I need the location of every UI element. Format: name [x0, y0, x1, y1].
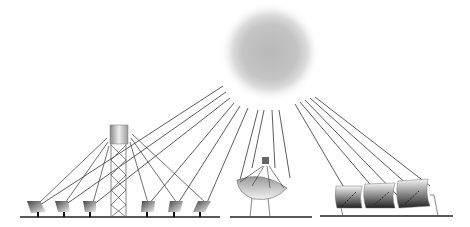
sun-icon — [220, 2, 320, 102]
trough-collector — [364, 183, 395, 208]
trough-collector — [335, 186, 362, 208]
parabolic-dish — [237, 157, 287, 217]
heliostat — [83, 201, 96, 217]
ground — [20, 216, 453, 217]
parabolic-troughs — [335, 179, 438, 216]
receiver-tank — [110, 125, 128, 144]
heliostat — [141, 201, 155, 217]
power-tower — [27, 125, 211, 217]
heliostat — [55, 201, 70, 217]
heliostat — [193, 201, 211, 217]
heliostat — [168, 201, 183, 217]
csp-diagram — [0, 0, 470, 227]
heliostats — [27, 201, 211, 217]
trough-collector — [397, 179, 430, 208]
